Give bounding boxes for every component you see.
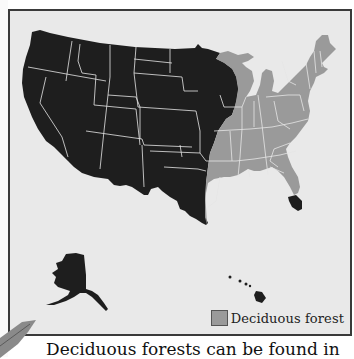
map-legend: Deciduous forest bbox=[211, 310, 344, 326]
south-florida-region bbox=[288, 195, 302, 211]
deciduous-swatch bbox=[211, 310, 228, 326]
leaf-icon bbox=[0, 318, 40, 358]
page-margin bbox=[0, 0, 8, 357]
alaska bbox=[46, 253, 108, 311]
legend-label-deciduous: Deciduous forest bbox=[231, 311, 344, 326]
non-deciduous-region bbox=[22, 30, 238, 225]
hawaii bbox=[229, 276, 267, 304]
us-map bbox=[10, 11, 350, 334]
caption-text: Deciduous forests can be found in bbox=[46, 339, 340, 359]
map-frame: Deciduous forest bbox=[8, 9, 352, 336]
